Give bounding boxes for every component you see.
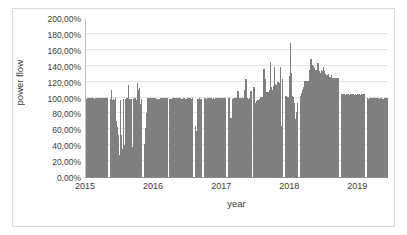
y-tick-label: 40,00% bbox=[21, 142, 81, 151]
y-tick-label: 0,00% bbox=[21, 174, 81, 183]
x-tick-label: 2018 bbox=[279, 181, 299, 192]
bar bbox=[338, 78, 339, 177]
bar bbox=[297, 103, 298, 177]
bar bbox=[201, 99, 202, 177]
y-tick-label: 160,00% bbox=[21, 47, 81, 56]
bar bbox=[141, 99, 142, 177]
x-tick-label: 2019 bbox=[347, 181, 367, 192]
chart-container: power flow 0,00%20,00%40,00%60,00%80,00%… bbox=[0, 0, 407, 235]
y-tick-label: 200,00% bbox=[21, 15, 81, 24]
y-tick-label: 100,00% bbox=[21, 95, 81, 104]
bar-series bbox=[86, 19, 388, 177]
y-tick-label: 120,00% bbox=[21, 79, 81, 88]
x-tick-label: 2015 bbox=[75, 181, 95, 192]
bar bbox=[282, 79, 283, 177]
bar bbox=[364, 94, 365, 177]
y-axis-tick-labels: 0,00%20,00%40,00%60,00%80,00%100,00%120,… bbox=[19, 19, 81, 178]
bar bbox=[225, 98, 226, 177]
y-tick-label: 140,00% bbox=[21, 63, 81, 72]
y-tick-label: 60,00% bbox=[21, 126, 81, 135]
y-tick-label: 180,00% bbox=[21, 31, 81, 40]
bar bbox=[192, 98, 193, 177]
bar bbox=[166, 98, 167, 177]
x-tick-label: 2016 bbox=[143, 181, 163, 192]
x-axis-tick-labels: 20152016201720182019 bbox=[85, 181, 388, 195]
x-tick-label: 2017 bbox=[211, 181, 231, 192]
y-tick-label: 80,00% bbox=[21, 110, 81, 119]
bar bbox=[250, 91, 251, 177]
plot-area bbox=[85, 19, 388, 178]
bar bbox=[107, 98, 108, 177]
x-axis-title: year bbox=[85, 198, 388, 209]
y-tick-label: 20,00% bbox=[21, 158, 81, 167]
